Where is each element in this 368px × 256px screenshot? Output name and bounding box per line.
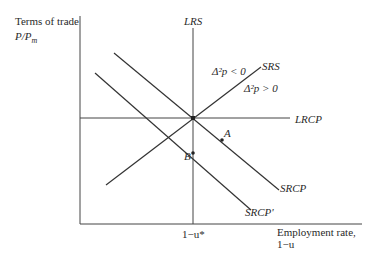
y-axis-label: Terms of trade P/Pm [15,15,79,47]
srcp-prime-label: SRCP' [245,206,274,218]
lrs-label: LRS [184,15,202,27]
point-b-marker [191,151,195,155]
y-axis-label-line1: Terms of trade [15,15,79,27]
region-label-above: Δ²p < 0 [212,65,246,77]
region-label-below: Δ²p > 0 [244,82,278,94]
equilibrium-point [191,116,195,120]
point-b-label: B [184,150,191,162]
srcp-label: SRCP [280,182,306,194]
srs-label: SRS [262,60,280,72]
srs-line [106,67,261,185]
x-axis-label-line1: Employment rate, [277,226,356,238]
x-axis-label: Employment rate, 1−u [277,226,356,250]
srcp-prime-line [95,73,251,210]
lrcp-label: LRCP [295,113,322,125]
y-axis-symbol: P/P [15,30,32,42]
x-tick-label: 1−u* [182,228,205,240]
y-axis-subscript: m [32,36,38,45]
srcp-line [114,53,279,190]
x-axis-label-line2: 1−u [277,238,356,250]
point-a-label: A [224,127,231,139]
y-axis-label-line2: P/Pm [15,30,79,47]
x-tick-text: 1−u* [182,228,205,240]
